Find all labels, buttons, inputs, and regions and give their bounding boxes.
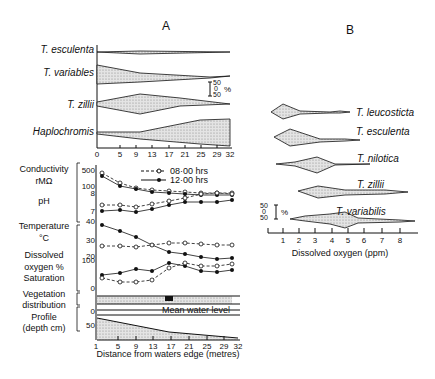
panel-b-x-axis: 1 2 3 4 5 6 7 8 bbox=[268, 228, 418, 245]
svg-text:30: 30 bbox=[86, 236, 95, 245]
svg-text:17: 17 bbox=[165, 150, 174, 159]
svg-text:8: 8 bbox=[91, 189, 96, 198]
svg-text:5: 5 bbox=[346, 236, 351, 245]
svg-text:oxygen %: oxygen % bbox=[24, 262, 64, 272]
panel-a-label: A bbox=[162, 19, 170, 33]
svg-text:7: 7 bbox=[380, 236, 385, 245]
svg-text:pH: pH bbox=[38, 196, 50, 206]
mean-water-level-label: Mean water level bbox=[162, 305, 230, 315]
svg-text:T. leucosticta: T. leucosticta bbox=[356, 107, 414, 118]
svg-text:distribution: distribution bbox=[22, 300, 66, 310]
svg-text:%: % bbox=[224, 85, 231, 94]
svg-text:40: 40 bbox=[86, 217, 95, 226]
svg-text:Profile: Profile bbox=[31, 312, 57, 322]
svg-text:21: 21 bbox=[181, 150, 190, 159]
svg-text:0: 0 bbox=[91, 284, 96, 293]
species-label: T. zillii bbox=[67, 99, 95, 110]
panel-a-kites bbox=[97, 51, 230, 146]
svg-text:9: 9 bbox=[134, 150, 139, 159]
svg-text:Temperature: Temperature bbox=[19, 221, 70, 231]
svg-text:4: 4 bbox=[330, 236, 335, 245]
svg-text:Dissolved: Dissolved bbox=[24, 250, 63, 260]
svg-text:Saturation: Saturation bbox=[23, 273, 64, 283]
species-label: Haplochromis bbox=[33, 126, 94, 137]
svg-text:50: 50 bbox=[213, 91, 221, 98]
svg-text:Vegetation: Vegetation bbox=[23, 289, 66, 299]
svg-text:2: 2 bbox=[297, 236, 302, 245]
svg-text:0: 0 bbox=[95, 150, 100, 159]
svg-text:T. variabilis: T. variabilis bbox=[336, 206, 386, 217]
svg-text:0: 0 bbox=[91, 307, 96, 316]
panel-a-y-ticks: 500 100 8 7 40 30 20 100 0 0 50 bbox=[82, 166, 96, 330]
svg-text:50: 50 bbox=[260, 214, 268, 221]
svg-text:50: 50 bbox=[86, 321, 95, 330]
svg-text:25: 25 bbox=[197, 150, 206, 159]
panel-a-x-label: Distance from waters edge (metres) bbox=[96, 349, 239, 359]
svg-text:32: 32 bbox=[226, 150, 235, 159]
svg-text:%: % bbox=[281, 208, 288, 217]
species-label: T. variables bbox=[43, 67, 94, 78]
svg-text:T. esculenta: T. esculenta bbox=[356, 126, 410, 137]
panel-b-label: B bbox=[346, 23, 354, 37]
svg-text:13: 13 bbox=[148, 150, 157, 159]
svg-text:°C: °C bbox=[39, 233, 50, 243]
panel-a-row-labels: Conductivity rMΩ pH Temperature °C Disso… bbox=[19, 164, 70, 333]
panel-a-legend: 08·00 hrs 12·00 hrs bbox=[141, 166, 209, 185]
panel-b-species-labels: T. leucosticta T. esculenta T. nilotica … bbox=[336, 107, 414, 217]
svg-text:5: 5 bbox=[118, 150, 123, 159]
panel-b-x-label: Dissolved oxygen (ppm) bbox=[292, 248, 389, 258]
svg-text:(depth cm): (depth cm) bbox=[22, 323, 65, 333]
svg-text:rMΩ: rMΩ bbox=[35, 176, 52, 186]
svg-text:500: 500 bbox=[82, 166, 96, 175]
svg-text:29: 29 bbox=[213, 150, 222, 159]
svg-text:8: 8 bbox=[398, 236, 403, 245]
svg-text:7: 7 bbox=[91, 207, 96, 216]
panel-b-scale-legend: 50 0 50 % bbox=[260, 202, 288, 221]
vegetation-band bbox=[97, 296, 240, 304]
svg-text:T. nilotica: T. nilotica bbox=[357, 153, 399, 164]
svg-text:T. zillii: T. zillii bbox=[357, 179, 385, 190]
panel-a-top-x-ticks: 0 5 9 13 17 21 25 29 32 bbox=[95, 145, 235, 159]
svg-text:12·00 hrs: 12·00 hrs bbox=[170, 175, 209, 185]
panel-a-scale-legend: 50 0 50 % bbox=[208, 79, 231, 98]
svg-text:6: 6 bbox=[362, 236, 367, 245]
svg-text:3: 3 bbox=[313, 236, 318, 245]
svg-text:100: 100 bbox=[82, 256, 96, 265]
species-label: T. esculenta bbox=[40, 44, 94, 55]
panel-a-species-labels: T. esculenta T. variables T. zillii Hapl… bbox=[33, 44, 95, 137]
svg-text:1: 1 bbox=[281, 236, 286, 245]
svg-text:Conductivity: Conductivity bbox=[19, 164, 69, 174]
